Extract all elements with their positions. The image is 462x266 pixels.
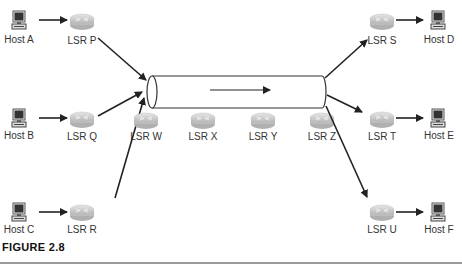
edge-lsr-p-tunnel <box>98 38 146 80</box>
host-icon-b <box>12 109 26 127</box>
host-icon-e <box>431 109 445 127</box>
host-a-label: Host A <box>4 34 33 45</box>
lsr-q-label: LSR Q <box>67 131 97 142</box>
router-icon-lsr-y <box>251 113 275 129</box>
router-icon-lsr-u <box>370 205 394 221</box>
edge-tunnel-lsr-t <box>327 95 362 112</box>
host-d-label: Host D <box>424 34 455 45</box>
edge-lsr-r-tunnel <box>115 98 144 198</box>
host-c-label: Host C <box>4 224 35 235</box>
lsr-y-label: LSR Y <box>249 131 278 142</box>
lsr-z-label: LSR Z <box>308 131 336 142</box>
host-f-label: Host F <box>424 224 453 235</box>
edge-lsr-q-tunnel <box>98 92 142 116</box>
figure-caption: FIGURE 2.8 <box>2 241 65 253</box>
lsp-tunnel <box>147 76 326 108</box>
router-icon-lsr-w <box>134 113 158 129</box>
host-icon-a <box>12 11 26 29</box>
edge-tunnel-lsr-s <box>325 40 367 78</box>
router-icon-lsr-p <box>70 14 94 30</box>
router-icon-lsr-x <box>191 113 215 129</box>
router-icon-lsr-s <box>370 14 394 30</box>
lsr-w-label: LSR W <box>130 131 162 142</box>
lsr-s-label: LSR S <box>368 35 397 46</box>
lsr-p-label: LSR P <box>68 35 97 46</box>
host-icon-c <box>12 203 26 221</box>
host-b-label: Host B <box>4 130 34 141</box>
lsr-u-label: LSR U <box>367 224 396 235</box>
host-icon-d <box>431 11 445 29</box>
caption-rule <box>0 262 462 264</box>
lsr-x-label: LSR X <box>189 131 218 142</box>
host-icon-f <box>431 203 445 221</box>
edge-tunnel-lsr-u <box>326 106 367 197</box>
router-icon-lsr-q <box>70 112 94 128</box>
host-e-label: Host E <box>424 130 454 141</box>
router-icon-lsr-r <box>70 205 94 221</box>
lsr-r-label: LSR R <box>67 224 96 235</box>
router-icon-lsr-t <box>370 112 394 128</box>
lsr-t-label: LSR T <box>368 131 396 142</box>
